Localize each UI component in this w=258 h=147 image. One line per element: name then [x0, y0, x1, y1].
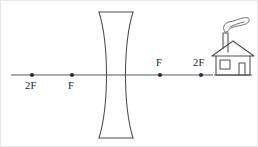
optics-diagram: 2F F F 2F	[0, 0, 258, 147]
label-right-2f: 2F	[193, 58, 205, 69]
focal-point-dot-left-f	[70, 73, 74, 77]
house-roof	[212, 41, 254, 56]
label-right-f: F	[156, 58, 162, 69]
house-window	[220, 60, 230, 69]
diagram-canvas	[1, 1, 258, 147]
label-left-2f: 2F	[25, 81, 37, 92]
focal-point-dot-right-2f	[199, 73, 203, 77]
house-object	[212, 18, 254, 75]
house-door	[239, 63, 245, 75]
focal-point-dot-left-2f	[30, 73, 34, 77]
label-left-f: F	[68, 81, 74, 92]
chimney-smoke	[224, 18, 250, 32]
focal-point-dot-right-f	[158, 73, 162, 77]
house-chimney	[223, 33, 228, 52]
